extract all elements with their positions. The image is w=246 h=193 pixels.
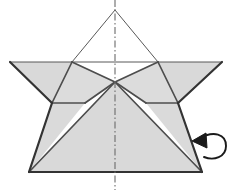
origami-svg-canvas: Origami fold diagram Symmetric origami m… — [0, 0, 246, 193]
origami-diagram-figure: Origami fold diagram Symmetric origami m… — [0, 0, 246, 193]
